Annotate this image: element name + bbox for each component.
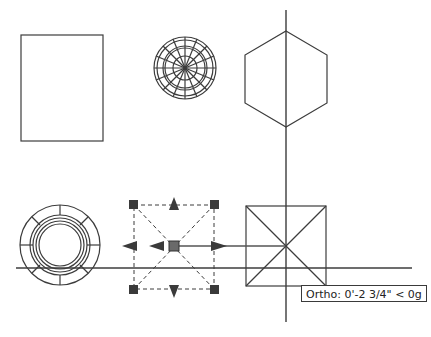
stretch-grip-right-icon[interactable] bbox=[211, 241, 227, 251]
stretch-grip-down-icon[interactable] bbox=[169, 285, 179, 298]
stretch-grip-left-icon[interactable] bbox=[122, 241, 137, 251]
corner-grip-bottom-left[interactable] bbox=[129, 285, 138, 294]
corner-grip-bottom-right[interactable] bbox=[210, 285, 219, 294]
center-grip[interactable] bbox=[169, 241, 179, 251]
corner-grip-top-right[interactable] bbox=[210, 200, 219, 209]
torus-object[interactable] bbox=[20, 205, 100, 285]
sphere-object[interactable] bbox=[154, 37, 216, 99]
rectangle-object[interactable] bbox=[21, 35, 103, 141]
stretch-grip-left-inner-icon[interactable] bbox=[149, 241, 164, 251]
ortho-tooltip: Ortho: 0'-2 3/4" < 0g bbox=[301, 285, 427, 302]
corner-grip-top-left[interactable] bbox=[129, 200, 138, 209]
stretch-grip-up-icon[interactable] bbox=[169, 197, 179, 210]
